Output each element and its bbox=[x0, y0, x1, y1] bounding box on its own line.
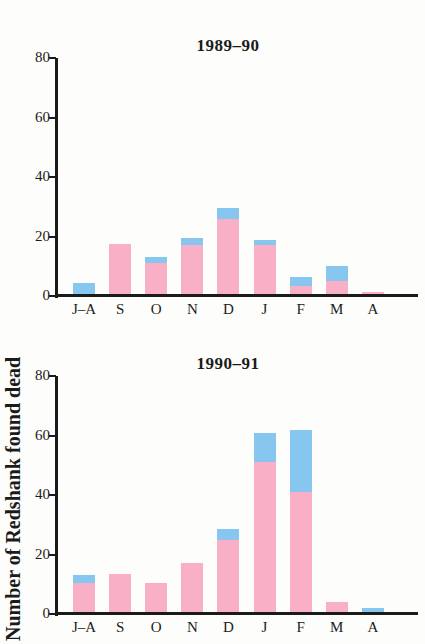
bar-segment-blue bbox=[73, 575, 95, 582]
bar-segment-pink bbox=[254, 462, 276, 614]
x-tick-label: S bbox=[100, 300, 140, 320]
plot-area: 806040200 J–ASONDJFMA bbox=[58, 376, 415, 614]
bar-segment-pink bbox=[109, 574, 131, 614]
bar-segment-pink bbox=[145, 263, 167, 296]
bars bbox=[58, 58, 415, 296]
bar-segment-blue bbox=[326, 266, 348, 281]
plot-area: 806040200 J–ASONDJFMA bbox=[58, 58, 415, 296]
chart-1989-90: 1989–90 806040200 J–ASONDJFMA bbox=[0, 36, 425, 326]
y-tick-label: 80 bbox=[6, 48, 50, 66]
y-axis-label: Number of Redshank found dead bbox=[2, 357, 25, 641]
x-tick-label: M bbox=[317, 300, 357, 320]
x-tick-label: F bbox=[281, 300, 321, 320]
y-axis-line bbox=[55, 58, 58, 298]
x-tick-label: O bbox=[136, 618, 176, 638]
bar-segment-blue bbox=[217, 529, 239, 539]
x-tick-label: F bbox=[281, 618, 321, 638]
y-axis-line bbox=[55, 376, 58, 616]
x-tick-label: J bbox=[245, 300, 285, 320]
bar-segment-pink bbox=[181, 245, 203, 296]
bar-segment-pink bbox=[145, 583, 167, 614]
chart-title: 1990–91 bbox=[58, 354, 398, 374]
x-tick-label: O bbox=[136, 300, 176, 320]
x-tick-label: N bbox=[172, 618, 212, 638]
bars bbox=[58, 376, 415, 614]
x-tick-label: A bbox=[353, 618, 393, 638]
chart-title: 1989–90 bbox=[58, 36, 398, 56]
x-axis-line bbox=[55, 294, 418, 297]
x-tick-label: M bbox=[317, 618, 357, 638]
y-tick-label: 40 bbox=[6, 167, 50, 185]
bar-segment-pink bbox=[109, 244, 131, 296]
x-tick-label: J–A bbox=[64, 300, 104, 320]
y-tick-label: 0 bbox=[6, 286, 50, 304]
bar-segment-pink bbox=[73, 583, 95, 614]
bar-segment-pink bbox=[217, 540, 239, 614]
bar-segment-blue bbox=[145, 257, 167, 263]
chart-1990-91: 1990–91 806040200 J–ASONDJFMA bbox=[0, 354, 425, 644]
x-tick-label: A bbox=[353, 300, 393, 320]
x-tick-label: D bbox=[208, 618, 248, 638]
bar-segment-blue bbox=[254, 433, 276, 463]
bar-segment-pink bbox=[217, 219, 239, 296]
x-axis-line bbox=[55, 612, 418, 615]
y-tick-label: 20 bbox=[6, 227, 50, 245]
x-tick-label: S bbox=[100, 618, 140, 638]
x-tick-label: N bbox=[172, 300, 212, 320]
bar-segment-blue bbox=[290, 430, 312, 492]
bar-segment-blue bbox=[217, 208, 239, 218]
x-tick-label: J–A bbox=[64, 618, 104, 638]
bar-segment-blue bbox=[290, 277, 312, 286]
bar-segment-pink bbox=[290, 492, 312, 614]
x-tick-label: D bbox=[208, 300, 248, 320]
bar-segment-blue bbox=[254, 240, 276, 246]
bar-segment-blue bbox=[181, 238, 203, 245]
bar-segment-pink bbox=[181, 563, 203, 614]
x-tick-label: J bbox=[245, 618, 285, 638]
y-tick-label: 60 bbox=[6, 108, 50, 126]
bar-segment-pink bbox=[254, 245, 276, 296]
